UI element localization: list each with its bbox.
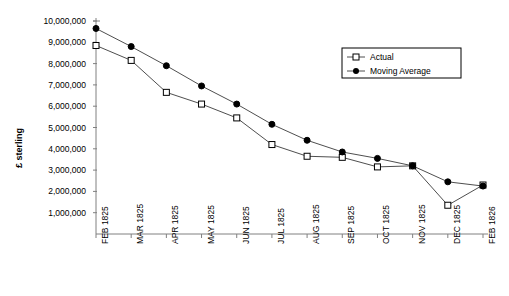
data-point-moving-average [128,44,134,50]
data-point-moving-average [234,101,240,107]
data-point-moving-average [199,83,205,89]
x-tick-label: JUN 1825 [241,206,251,244]
y-tick-label: 1,000,000 [48,208,86,218]
data-point-actual [199,101,205,107]
y-tick-label: 9,000,000 [48,37,86,47]
legend-label: Moving Average [370,66,431,76]
data-point-moving-average [445,179,451,185]
data-point-actual [445,202,451,208]
data-point-actual [163,89,169,95]
y-tick-label: 2,000,000 [48,186,86,196]
x-tick-label: FEB 1826 [487,206,497,244]
data-point-actual [93,42,99,48]
data-point-moving-average [163,63,169,69]
x-tick-label: AUG 1825 [311,204,321,244]
y-tick-label: 4,000,000 [48,144,86,154]
data-point-moving-average [339,149,345,155]
data-point-moving-average [304,137,310,143]
y-tick-label: 6,000,000 [48,101,86,111]
x-tick-label: MAR 1825 [135,204,145,244]
legend: ActualMoving Average [342,48,461,78]
x-tick-label: FEB 1825 [100,206,110,244]
data-point-actual [128,57,134,63]
data-point-actual [304,153,310,159]
y-tick-label: 3,000,000 [48,165,86,175]
data-point-actual [234,115,240,121]
y-tick-label: 8,000,000 [48,59,86,69]
chart-container: £ sterling 1,000,0002,000,0003,000,0004,… [0,0,509,296]
x-tick-label: OCT 1825 [381,205,391,244]
y-axis-tick-labels: 1,000,0002,000,0003,000,0004,000,0005,00… [0,0,86,296]
x-tick-label: DEC 1825 [452,205,462,244]
data-point-moving-average [269,121,275,127]
legend-marker-moving-average [353,68,359,74]
y-tick-label: 10,000,000 [43,16,86,26]
data-point-moving-average [410,163,416,169]
data-point-actual [269,142,275,148]
x-tick-label: SEP 1825 [346,206,356,244]
data-point-actual [374,164,380,170]
x-tick-label: NOV 1825 [417,204,427,244]
x-tick-label: JUL 1825 [276,208,286,244]
data-point-moving-average [374,155,380,161]
data-point-moving-average [93,25,99,31]
legend-marker-actual [353,54,359,60]
x-tick-label: APR 1825 [170,205,180,244]
y-tick-label: 5,000,000 [48,123,86,133]
legend-label: Actual [370,52,394,62]
y-tick-label: 7,000,000 [48,80,86,90]
x-tick-label: MAY 1825 [206,205,216,244]
data-point-moving-average [480,183,486,189]
